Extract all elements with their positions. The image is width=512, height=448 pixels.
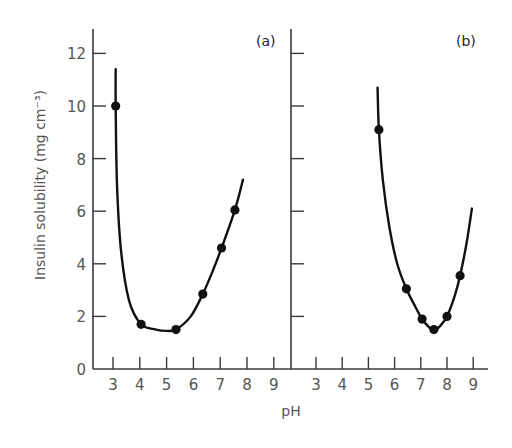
data-point (429, 325, 438, 334)
x-tick-label: 6 (390, 376, 400, 394)
axes: 34567893456789024681012 (67, 29, 488, 394)
y-tick-label: 4 (76, 256, 86, 274)
x-tick-label: 5 (364, 376, 374, 394)
x-tick-label: 4 (135, 376, 145, 394)
x-tick-label: 4 (337, 376, 347, 394)
data-point (137, 320, 146, 329)
data-point (198, 289, 207, 298)
data-point (418, 314, 427, 323)
x-tick-label: 9 (269, 376, 279, 394)
y-tick-label: 0 (76, 361, 86, 379)
x-tick-label: 7 (416, 376, 426, 394)
data-point (217, 243, 226, 252)
panel-label: (b) (456, 33, 476, 49)
y-tick-label: 8 (76, 151, 86, 169)
x-tick-label: 3 (311, 376, 321, 394)
x-tick-label: 8 (442, 376, 452, 394)
panel-b: (b) (374, 33, 476, 334)
y-tick-label: 12 (67, 45, 86, 63)
x-tick-label: 7 (215, 376, 225, 394)
x-axis-title: pH (281, 403, 300, 419)
data-point (111, 101, 120, 110)
data-point (171, 325, 180, 334)
y-tick-label: 6 (76, 203, 86, 221)
data-point (374, 125, 383, 134)
panel-a: (a) (111, 33, 275, 334)
x-tick-label: 9 (468, 376, 478, 394)
insulin-solubility-chart: Insulin solubility (mg cm⁻³) pH 34567893… (0, 0, 512, 448)
panel-label: (a) (256, 33, 276, 49)
data-point (402, 284, 411, 293)
data-point (456, 271, 465, 280)
fit-curve (116, 69, 243, 331)
x-tick-label: 3 (108, 376, 118, 394)
x-tick-label: 5 (162, 376, 172, 394)
data-point (442, 312, 451, 321)
data-point (230, 205, 239, 214)
x-tick-label: 6 (189, 376, 199, 394)
x-tick-label: 8 (242, 376, 252, 394)
y-tick-label: 2 (76, 308, 86, 326)
y-tick-label: 10 (67, 98, 86, 116)
fit-curve (378, 88, 472, 331)
y-axis-title: Insulin solubility (mg cm⁻³) (32, 90, 48, 280)
